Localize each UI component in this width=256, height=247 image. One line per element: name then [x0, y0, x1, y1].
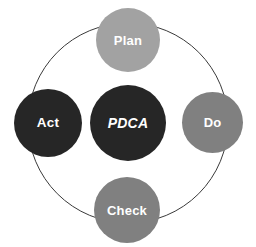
node-check[interactable]: Check [94, 177, 160, 243]
node-plan[interactable]: Plan [96, 8, 160, 72]
node-plan-label: Plan [114, 34, 142, 47]
pdca-diagram: Plan Do Check Act PDCA [0, 0, 256, 247]
node-pdca-center-label: PDCA [108, 116, 148, 130]
node-act-label: Act [37, 116, 59, 130]
node-pdca-center[interactable]: PDCA [90, 85, 166, 161]
node-check-label: Check [107, 204, 147, 217]
node-do[interactable]: Do [182, 92, 243, 153]
node-act[interactable]: Act [14, 89, 82, 157]
node-do-label: Do [204, 116, 222, 129]
